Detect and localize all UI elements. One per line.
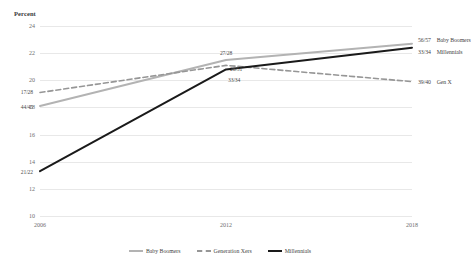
legend-swatch-icon: [197, 250, 211, 252]
x-tick-label: 2012: [220, 222, 232, 228]
point-label: 21/22: [21, 169, 33, 175]
legend-item[interactable]: Baby Boomers: [129, 248, 181, 254]
y-tick-label: 16: [29, 132, 35, 138]
point-label: 17/28: [21, 89, 33, 95]
y-tick-label: 12: [29, 186, 35, 192]
y-axis-title: Percent: [14, 10, 36, 17]
legend-item[interactable]: Generation Xers: [197, 248, 252, 254]
y-tick-label: 24: [29, 23, 35, 29]
series-end-label: 33/34 Millennials: [418, 49, 463, 55]
legend-label: Millennials: [285, 248, 311, 254]
chart-legend: Baby BoomersGeneration XersMillennials: [0, 248, 440, 254]
legend-label: Baby Boomers: [146, 248, 181, 254]
plot-area: 2422201816141210 200620122018 44/4527/28…: [40, 26, 412, 216]
x-tick-label: 2018: [406, 222, 418, 228]
series-end-label: 56/57 Baby Boomers: [418, 37, 471, 43]
point-label: 44/45: [21, 104, 33, 110]
legend-swatch-icon: [129, 250, 143, 252]
point-label: 27/28: [220, 50, 232, 56]
y-tick-label: 20: [29, 77, 35, 83]
y-tick-label: 22: [29, 50, 35, 56]
legend-label: Generation Xers: [214, 248, 252, 254]
series-line: [40, 48, 412, 171]
x-tick-label: 2006: [34, 222, 46, 228]
point-label: 33/34: [228, 77, 240, 83]
point-label: 26/51: [230, 66, 242, 72]
legend-swatch-icon: [268, 250, 282, 252]
y-tick-label: 10: [29, 213, 35, 219]
gridline: [40, 216, 412, 217]
y-tick-label: 14: [29, 159, 35, 165]
legend-item[interactable]: Millennials: [268, 248, 311, 254]
series-end-label: 39/40 Gen X: [418, 79, 452, 85]
